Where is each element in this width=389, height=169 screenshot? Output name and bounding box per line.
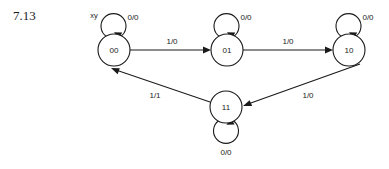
transition-s01-to-s10: 1/0 — [243, 37, 333, 53]
transition-label-s10-s11: 1/0 — [302, 91, 314, 100]
transition-s10-to-s11: 1/0 — [243, 64, 360, 106]
self-loop-s11: 0/0 — [213, 119, 238, 158]
self-loop-path — [213, 121, 238, 144]
state-node-s01[interactable]: 01 — [211, 34, 243, 66]
transition-s11-to-s00: 1/1 — [111, 68, 210, 102]
transition-label-s11-s00: 1/1 — [149, 91, 161, 100]
figure-number-label: 7.13 — [13, 8, 36, 23]
state-node-s11[interactable]: 11 — [210, 91, 242, 123]
self-loop-path — [214, 14, 239, 37]
transition-line — [116, 70, 210, 102]
transition-s00-to-s01: 1/0 — [130, 37, 211, 53]
self-loop-label-s11: 0/0 — [220, 148, 232, 157]
arrow-head-icon — [111, 68, 120, 74]
state-transition-diagram: 7.13 1/0 1/0 1/0 1/1 xy — [0, 0, 389, 169]
self-loop-path — [336, 14, 361, 37]
input-variable-label: xy — [90, 11, 98, 20]
state-label-s10: 10 — [345, 46, 354, 55]
self-loop-path — [101, 14, 126, 37]
state-label-s00: 00 — [110, 46, 119, 55]
arrow-head-icon — [203, 47, 211, 54]
arrow-head-icon — [325, 47, 333, 54]
arrow-head-icon — [243, 100, 252, 106]
transition-label-s00-s01: 1/0 — [166, 37, 178, 46]
state-diagram-figure: 7.13 1/0 1/0 1/0 1/1 xy — [0, 0, 389, 169]
state-node-s00[interactable]: 00 — [98, 34, 130, 66]
state-label-s11: 11 — [222, 103, 231, 112]
state-node-s10[interactable]: 10 — [333, 34, 365, 66]
self-loop-label-s10: 0/0 — [362, 13, 374, 22]
transition-label-s01-s10: 1/0 — [282, 37, 294, 46]
self-loop-label-s00: 0/0 — [127, 13, 139, 22]
state-label-s01: 01 — [223, 46, 232, 55]
self-loop-label-s01: 0/0 — [240, 13, 252, 22]
